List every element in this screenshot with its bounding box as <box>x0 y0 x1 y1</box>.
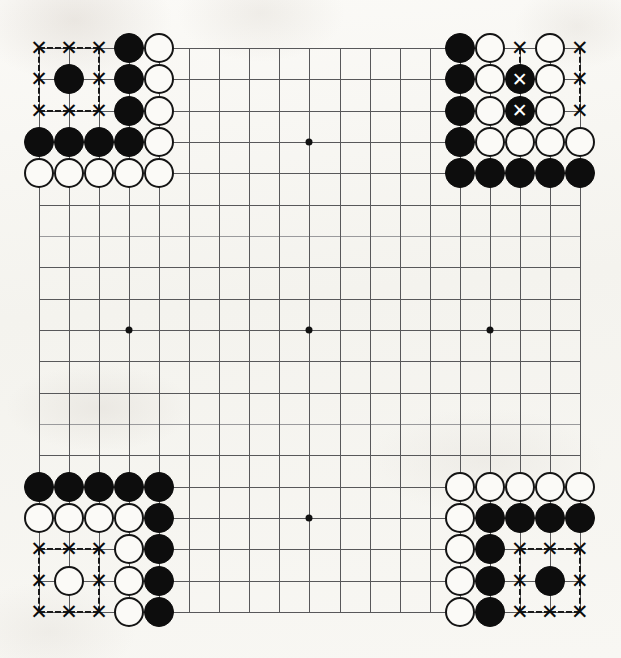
stone-black[interactable] <box>445 64 475 94</box>
stone-white[interactable] <box>54 566 84 596</box>
stone-white[interactable] <box>54 158 84 188</box>
stone-white[interactable] <box>84 503 114 533</box>
stone-black[interactable] <box>54 127 84 157</box>
stone-black[interactable] <box>144 534 174 564</box>
stone-black[interactable] <box>565 503 595 533</box>
stone-white[interactable] <box>505 127 535 157</box>
x-mark-icon[interactable]: ✕ <box>60 601 78 622</box>
stone-white[interactable] <box>84 158 114 188</box>
x-mark-icon[interactable]: ✕ <box>30 38 48 59</box>
stone-white[interactable] <box>445 534 475 564</box>
stone-black[interactable] <box>445 33 475 63</box>
stone-black[interactable] <box>114 64 144 94</box>
stone-white[interactable] <box>144 158 174 188</box>
go-board[interactable]: ✕✕✕✕✕✕✕✕✕✕✕✕✕✕✕✕✕✕✕✕✕✕✕✕✕✕✕✕✕✕ <box>0 0 621 658</box>
stone-black[interactable] <box>535 503 565 533</box>
stone-white[interactable] <box>144 96 174 126</box>
stone-white[interactable] <box>535 127 565 157</box>
x-mark-icon[interactable]: ✕ <box>90 601 108 622</box>
stone-white[interactable] <box>114 503 144 533</box>
stone-white[interactable] <box>144 33 174 63</box>
stone-black[interactable] <box>114 472 144 502</box>
stone-white[interactable] <box>535 96 565 126</box>
stone-black[interactable] <box>445 158 475 188</box>
stone-white[interactable] <box>565 472 595 502</box>
x-mark-icon[interactable]: ✕ <box>90 570 108 591</box>
stone-black[interactable] <box>445 96 475 126</box>
stone-black[interactable] <box>535 158 565 188</box>
x-mark-icon[interactable]: ✕ <box>511 570 529 591</box>
stone-white[interactable] <box>475 64 505 94</box>
stone-black[interactable] <box>475 534 505 564</box>
stone-white[interactable] <box>565 127 595 157</box>
stone-white[interactable] <box>475 127 505 157</box>
stone-black[interactable]: ✕ <box>505 96 535 126</box>
stone-black[interactable] <box>505 158 535 188</box>
x-mark-icon[interactable]: ✕ <box>571 539 589 560</box>
x-mark-icon[interactable]: ✕ <box>90 100 108 121</box>
x-mark-icon[interactable]: ✕ <box>90 38 108 59</box>
stone-white[interactable] <box>114 566 144 596</box>
stone-black[interactable] <box>54 472 84 502</box>
stone-black[interactable] <box>54 64 84 94</box>
stone-white[interactable] <box>445 503 475 533</box>
stone-white[interactable] <box>475 472 505 502</box>
stone-black[interactable] <box>144 472 174 502</box>
stone-black[interactable] <box>445 127 475 157</box>
x-mark-icon[interactable]: ✕ <box>511 601 529 622</box>
x-mark-icon[interactable]: ✕ <box>60 100 78 121</box>
x-mark-icon[interactable]: ✕ <box>60 38 78 59</box>
stone-black[interactable] <box>535 566 565 596</box>
x-mark-icon[interactable]: ✕ <box>60 539 78 560</box>
stone-white[interactable] <box>54 503 84 533</box>
stone-white[interactable] <box>114 597 144 627</box>
stone-white[interactable] <box>445 472 475 502</box>
x-mark-icon[interactable]: ✕ <box>90 69 108 90</box>
stone-black[interactable] <box>475 597 505 627</box>
stone-black[interactable] <box>144 503 174 533</box>
stone-black[interactable] <box>144 597 174 627</box>
stone-white[interactable] <box>475 96 505 126</box>
x-mark-icon[interactable]: ✕ <box>541 539 559 560</box>
stone-black[interactable] <box>114 127 144 157</box>
stone-white[interactable] <box>535 33 565 63</box>
x-mark-icon[interactable]: ✕ <box>30 570 48 591</box>
stone-black[interactable] <box>475 566 505 596</box>
stone-black[interactable] <box>475 158 505 188</box>
stone-white[interactable] <box>445 566 475 596</box>
stone-white[interactable] <box>144 64 174 94</box>
x-mark-icon[interactable]: ✕ <box>571 100 589 121</box>
stone-black[interactable] <box>505 503 535 533</box>
x-mark-icon[interactable]: ✕ <box>30 69 48 90</box>
stone-black[interactable] <box>114 33 144 63</box>
stone-white[interactable] <box>505 472 535 502</box>
stone-black[interactable] <box>84 472 114 502</box>
x-mark-icon[interactable]: ✕ <box>511 539 529 560</box>
stone-black[interactable] <box>24 472 54 502</box>
x-mark-icon[interactable]: ✕ <box>30 601 48 622</box>
x-mark-icon[interactable]: ✕ <box>511 38 529 59</box>
x-mark-icon[interactable]: ✕ <box>571 38 589 59</box>
stone-white[interactable] <box>24 503 54 533</box>
x-mark-icon[interactable]: ✕ <box>90 539 108 560</box>
stone-black[interactable] <box>114 96 144 126</box>
stone-black[interactable] <box>24 127 54 157</box>
x-mark-icon[interactable]: ✕ <box>541 601 559 622</box>
x-mark-icon[interactable]: ✕ <box>30 100 48 121</box>
x-mark-icon[interactable]: ✕ <box>571 570 589 591</box>
x-mark-icon[interactable]: ✕ <box>571 601 589 622</box>
stone-black[interactable]: ✕ <box>505 64 535 94</box>
stone-white[interactable] <box>535 64 565 94</box>
stone-black[interactable] <box>84 127 114 157</box>
stone-black[interactable] <box>565 158 595 188</box>
stone-white[interactable] <box>535 472 565 502</box>
x-mark-icon[interactable]: ✕ <box>30 539 48 560</box>
x-mark-icon[interactable]: ✕ <box>571 69 589 90</box>
stone-black[interactable] <box>475 503 505 533</box>
stone-white[interactable] <box>24 158 54 188</box>
stone-white[interactable] <box>114 534 144 564</box>
stone-white[interactable] <box>475 33 505 63</box>
stone-white[interactable] <box>144 127 174 157</box>
stone-white[interactable] <box>445 597 475 627</box>
stone-white[interactable] <box>114 158 144 188</box>
